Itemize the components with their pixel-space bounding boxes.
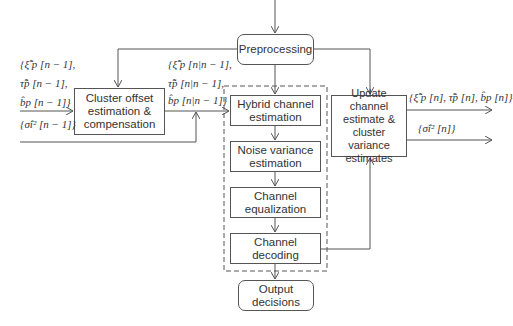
preprocessing-box: Preprocessing <box>237 34 314 65</box>
label-out-variance: {σ̂i² [n]} <box>418 122 455 135</box>
noise-variance-box: Noise variance estimation <box>230 141 321 172</box>
cluster-offset-box: Cluster offset estimation & compensation <box>74 88 165 135</box>
label-mid-tau: τ̂̃p [n|n − 1], <box>168 77 224 90</box>
label-input-tau: τ̂̃p [n − 1], <box>20 77 67 90</box>
channel-equalization-box: Channel equalization <box>230 187 321 218</box>
label-input-xi: {ξ̂̃ p [n − 1], <box>20 58 75 71</box>
label-mid-b: b̂p [n|n − 1]} <box>168 94 227 107</box>
update-estimates-box: Update channel estimate & cluster varian… <box>331 95 407 157</box>
label-input-b: b̂p [n − 1]} <box>20 96 71 109</box>
arrow-decoding-update <box>321 158 370 249</box>
label-out-channel: {ξ̂̃ p [n], τ̂̃p [n], b̂p [n]} <box>409 91 513 104</box>
channel-decoding-box: Channel decoding <box>230 233 321 264</box>
label-input-sigma: {σ̂i² [n − 1]} <box>20 118 76 131</box>
hybrid-channel-box: Hybrid channel estimation <box>230 95 321 126</box>
output-decisions-box: Output decisions <box>238 280 314 311</box>
label-mid-xi: {ξ̂̃ p [n|n − 1], <box>168 58 232 71</box>
